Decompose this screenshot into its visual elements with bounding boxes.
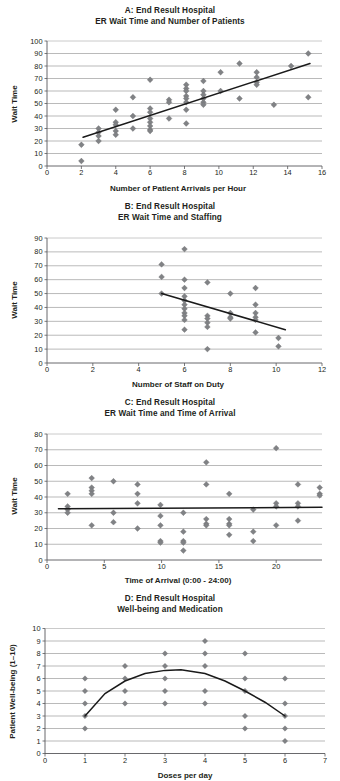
- x-tick-label: 15: [215, 562, 223, 571]
- data-point-marker: [166, 116, 172, 122]
- panel-c-xaxis-title: Time of Arrival (0:00 - 24:00): [125, 576, 232, 585]
- panel-b-er-wait-vs-staffing: B: End Result Hospital ER Wait Time and …: [0, 196, 340, 392]
- data-point-marker: [162, 701, 167, 706]
- y-tick-label: 0: [38, 162, 42, 171]
- panel-b-yaxis-title: Wait Time: [10, 281, 19, 319]
- y-tick-label: 60: [34, 461, 42, 470]
- y-tick-label: 5: [36, 687, 40, 696]
- data-point-marker: [205, 346, 211, 352]
- data-point-marker: [203, 459, 209, 465]
- data-point-marker: [227, 291, 233, 297]
- data-point-marker: [82, 688, 87, 693]
- x-tick-label: 0: [45, 562, 49, 571]
- data-point-marker: [159, 261, 165, 267]
- data-point-marker: [147, 77, 153, 83]
- data-point-marker: [282, 738, 287, 743]
- x-tick-label: 4: [203, 756, 207, 765]
- data-point-marker: [162, 663, 167, 668]
- x-tick-label: 14: [284, 168, 292, 177]
- y-tick-label: 30: [34, 124, 42, 133]
- data-point-marker: [288, 63, 294, 69]
- y-tick-label: 10: [32, 624, 40, 633]
- data-point-marker: [180, 510, 186, 516]
- panel-b-plot: 0102030405060708090024681012 Number of S…: [0, 196, 340, 392]
- data-point-marker: [271, 102, 277, 108]
- data-point-marker: [135, 526, 141, 532]
- panel-c-plot: 0102030405060708005101520 Time of Arriva…: [0, 392, 340, 588]
- data-point-marker: [65, 510, 71, 516]
- data-point-marker: [237, 96, 243, 102]
- trend-line: [58, 507, 322, 509]
- y-tick-label: 100: [30, 37, 42, 46]
- y-tick-label: 10: [34, 540, 42, 549]
- y-tick-label: 60: [34, 87, 42, 96]
- panel-a-markers: [78, 51, 311, 164]
- x-tick-label: 12: [318, 365, 326, 374]
- scatterplot-figure-stack: A: End Result Hospital ER Wait Time and …: [0, 0, 340, 781]
- data-point-marker: [203, 482, 209, 488]
- x-tick-label: 8: [182, 168, 186, 177]
- panel-b-ticklabels: 0102030405060708090024681012: [34, 234, 326, 374]
- data-point-marker: [253, 302, 259, 308]
- data-point-marker: [250, 529, 256, 535]
- panel-c-ticklabels: 0102030405060708005101520: [34, 430, 280, 571]
- y-tick-label: 50: [34, 289, 42, 298]
- data-point-marker: [202, 701, 207, 706]
- data-point-marker: [305, 94, 311, 100]
- data-point-marker: [135, 482, 141, 488]
- data-point-marker: [183, 107, 189, 113]
- data-point-marker: [113, 107, 119, 113]
- data-point-marker: [182, 246, 188, 252]
- y-tick-label: 40: [34, 493, 42, 502]
- data-point-marker: [96, 138, 102, 144]
- data-point-marker: [180, 548, 186, 554]
- y-tick-label: 0: [38, 556, 42, 565]
- data-point-marker: [226, 532, 232, 538]
- panel-a-plot: 01020304050607080901000246810121416 Numb…: [0, 0, 340, 196]
- data-point-marker: [111, 510, 117, 516]
- y-tick-label: 40: [34, 303, 42, 312]
- y-tick-label: 80: [34, 62, 42, 71]
- data-point-marker: [226, 491, 232, 497]
- trend-line: [83, 64, 310, 138]
- panel-a-xaxis-title: Number of Patient Arrivals per Hour: [110, 184, 246, 193]
- data-point-marker: [111, 519, 117, 525]
- panel-a-er-wait-vs-arrivals: A: End Result Hospital ER Wait Time and …: [0, 0, 340, 196]
- data-point-marker: [89, 475, 95, 481]
- panel-b-trendline: [162, 294, 286, 330]
- panel-d-plot: 01234567891001234567 Doses per day Patie…: [0, 588, 340, 781]
- data-point-marker: [242, 676, 247, 681]
- data-point-marker: [317, 485, 323, 491]
- data-point-marker: [82, 701, 87, 706]
- y-tick-label: 80: [34, 430, 42, 439]
- data-point-marker: [273, 445, 279, 451]
- x-tick-label: 0: [45, 168, 49, 177]
- y-tick-label: 90: [34, 49, 42, 58]
- data-point-marker: [89, 522, 95, 528]
- panel-a-yaxis-title: Wait Time: [10, 85, 19, 123]
- y-tick-label: 30: [34, 317, 42, 326]
- y-tick-label: 4: [36, 699, 40, 708]
- y-tick-label: 10: [34, 345, 42, 354]
- y-tick-label: 40: [34, 112, 42, 121]
- x-tick-label: 6: [283, 756, 287, 765]
- y-tick-label: 10: [34, 149, 42, 158]
- data-point-marker: [205, 324, 211, 330]
- data-point-marker: [273, 504, 279, 510]
- data-point-marker: [201, 78, 207, 84]
- panel-d-ticklabels: 01234567891001234567: [32, 624, 327, 764]
- data-point-marker: [162, 651, 167, 656]
- data-point-marker: [295, 518, 301, 524]
- data-point-marker: [180, 529, 186, 535]
- y-tick-label: 50: [34, 99, 42, 108]
- y-tick-label: 8: [36, 649, 40, 658]
- data-point-marker: [162, 676, 167, 681]
- trend-line: [162, 294, 286, 330]
- x-tick-label: 0: [45, 365, 49, 374]
- data-point-marker: [282, 676, 287, 681]
- x-tick-label: 2: [79, 168, 83, 177]
- panel-a-trendline: [83, 64, 310, 138]
- x-tick-label: 12: [249, 168, 257, 177]
- x-tick-label: 2: [91, 365, 95, 374]
- data-point-marker: [242, 726, 247, 731]
